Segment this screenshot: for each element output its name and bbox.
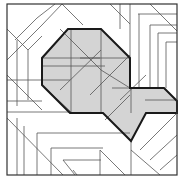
- crease-pattern-diagram: [0, 0, 184, 180]
